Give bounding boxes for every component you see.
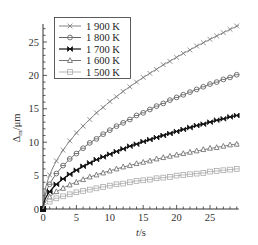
- legend-label: 1 900 K: [86, 21, 120, 32]
- legend-label: 1 500 K: [86, 67, 120, 78]
- x-axis-label: t/s: [136, 227, 146, 238]
- x-tick-label: 0: [40, 212, 45, 223]
- x-tick-label: 10: [105, 212, 116, 223]
- legend-label: 1 700 K: [86, 44, 120, 55]
- legend: 1 900 K1 800 K1 700 K1 600 K1 500 K: [55, 18, 131, 79]
- legend-label: 1 600 K: [86, 55, 120, 66]
- y-tick-label: 5: [34, 170, 39, 181]
- x-tick-label: 25: [205, 212, 216, 223]
- y-tick-label: 20: [29, 70, 40, 81]
- y-tick-label: 15: [29, 103, 40, 114]
- x-tick-label: 15: [138, 212, 149, 223]
- y-tick-label: 0: [34, 204, 39, 215]
- y-tick-label: 25: [29, 37, 40, 48]
- chart: 05101520250510152025 1 900 K1 800 K1 700…: [0, 0, 258, 245]
- legend-label: 1 800 K: [86, 32, 120, 43]
- x-tick-label: 20: [171, 212, 182, 223]
- y-axis-label: Δm/μm: [11, 114, 24, 143]
- y-tick-label: 10: [29, 137, 40, 148]
- x-tick-label: 5: [74, 212, 79, 223]
